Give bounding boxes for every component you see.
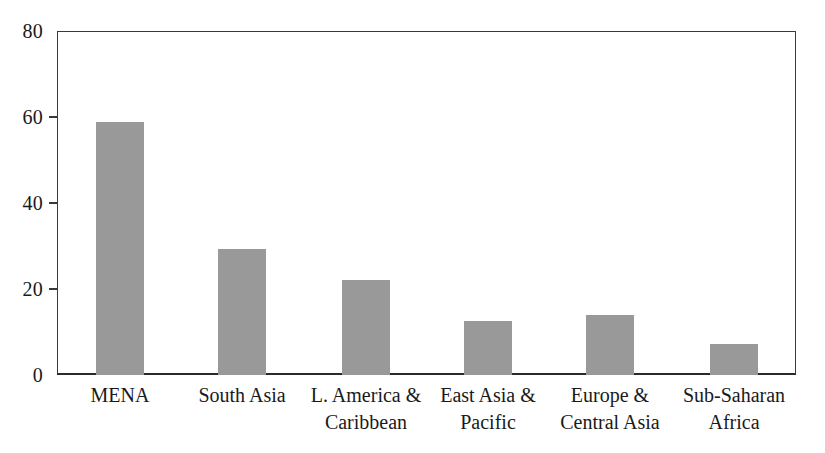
- x-label-europe-central-asia-line1: Europe &: [571, 384, 649, 406]
- x-label-sub-saharan-africa-line2: Africa: [659, 409, 809, 436]
- bar-east-asia-pacific: [464, 321, 512, 375]
- x-label-mena-line1: MENA: [91, 384, 150, 406]
- bar-south-asia: [218, 249, 266, 375]
- bar-chart: 80 60 40 20 0 MENA: [0, 0, 825, 453]
- x-axis-labels: MENA South Asia L. America & Caribbean E…: [0, 382, 825, 452]
- x-label-south-asia-line1: South Asia: [198, 384, 285, 406]
- x-label-sub-saharan-africa-line1: Sub-Saharan: [683, 384, 785, 406]
- bar-mena: [96, 122, 144, 375]
- bar-sub-saharan-africa: [710, 344, 758, 375]
- x-label-east-asia-pacific-line1: East Asia &: [440, 384, 536, 406]
- bar-europe-central-asia: [586, 315, 634, 375]
- bar-l-america-caribbean: [342, 280, 390, 375]
- x-label-sub-saharan-africa: Sub-Saharan Africa: [659, 382, 809, 436]
- x-label-l-america-caribbean-line1: L. America &: [311, 384, 422, 406]
